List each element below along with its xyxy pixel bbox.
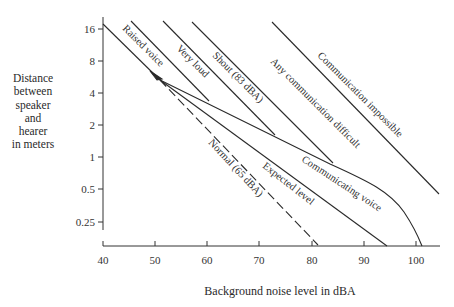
label-raised-voice: Raised voice [121, 23, 167, 69]
x-tick-label: 80 [307, 254, 319, 266]
series-labels: Raised voice Very loud Shout (83 dBA) An… [121, 23, 406, 214]
label-communication-impossible: Communication impossible [316, 50, 406, 140]
line-shout [163, 21, 275, 135]
line-communication-impossible [272, 22, 439, 194]
line-communicating-voice [160, 80, 422, 246]
y-tick-labels: 16 8 4 2 1 0.5 0.25 [76, 23, 96, 228]
x-tick-label: 60 [202, 254, 214, 266]
x-axis [103, 241, 440, 246]
x-tick-label: 50 [150, 254, 162, 266]
label-normal: Normal (65 dBA) [206, 137, 266, 200]
y-tick-label: 0.25 [76, 216, 96, 228]
x-axis-label: Background noise level in dBA [150, 284, 410, 299]
label-very-loud: Very loud [175, 43, 212, 80]
label-any-communication-difficult: Any communication difficult [269, 56, 363, 150]
y-tick-label: 2 [90, 119, 96, 131]
chart-plot: 16 8 4 2 1 0.5 0.25 40 50 60 70 80 90 10… [0, 0, 454, 307]
y-tick-label: 1 [90, 151, 96, 163]
y-tick-label: 4 [90, 87, 96, 99]
x-tick-label: 40 [98, 254, 110, 266]
y-tick-label: 16 [84, 23, 96, 35]
convergence-wedge [150, 71, 162, 80]
x-tick-label: 100 [408, 254, 425, 266]
x-tick-label: 70 [254, 254, 266, 266]
y-tick-label: 0.5 [81, 183, 95, 195]
x-tick-labels: 40 50 60 70 80 90 100 [98, 254, 425, 266]
label-communicating-voice: Communicating voice [300, 153, 384, 213]
y-axis [98, 17, 103, 230]
x-tick-label: 90 [359, 254, 371, 266]
y-tick-label: 8 [90, 55, 96, 67]
